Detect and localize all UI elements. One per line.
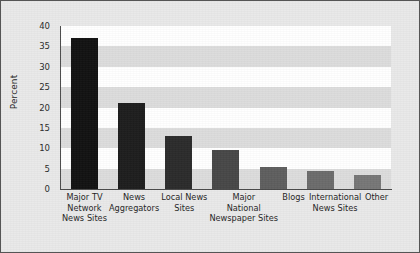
y-axis-tick: 35 [0, 42, 56, 51]
x-axis-category-label: Major TVNetworkNews Sites [61, 192, 108, 224]
x-axis-category-label-line: Other [363, 192, 390, 203]
bar-slot [297, 26, 344, 189]
bar [354, 175, 381, 189]
x-axis-category-label: NewsAggregators [108, 192, 160, 224]
plot-area [61, 26, 391, 189]
x-axis-category-label-line: Network [62, 203, 107, 214]
x-axis-category-label-line: Sites [161, 203, 207, 214]
x-axis-category-label-line: Local News [161, 192, 207, 203]
y-axis-title: Percent [9, 57, 19, 127]
x-axis-category-label-line: International [309, 192, 361, 203]
bar [118, 103, 145, 189]
bar-slot [155, 26, 202, 189]
bar [260, 167, 287, 189]
x-axis-category-label-line: Major [209, 192, 278, 203]
bar-slot [202, 26, 249, 189]
bar [212, 150, 239, 189]
bar-slot [250, 26, 297, 189]
y-axis-tick: 0 [0, 185, 56, 194]
x-axis-category-label: Local NewsSites [160, 192, 208, 224]
bar-slot [344, 26, 391, 189]
bar-slot [61, 26, 108, 189]
chart-figure: 0510152025303540 Percent Major TVNetwork… [0, 0, 420, 253]
y-axis-tick: 10 [0, 144, 56, 153]
x-axis-category-label-line: Major TV [62, 192, 107, 203]
x-axis-category-labels: Major TVNetworkNews SitesNewsAggregators… [61, 192, 391, 224]
bar [307, 171, 334, 189]
x-axis-category-label: MajorNationalNewspaper Sites [208, 192, 279, 224]
bar [165, 136, 192, 189]
x-axis-category-label-line: Aggregators [109, 203, 159, 214]
bar [71, 38, 98, 189]
y-axis-line [60, 26, 61, 190]
x-axis-category-label: Other [362, 192, 391, 224]
x-axis-category-label: InternationalNews Sites [308, 192, 362, 224]
x-axis-category-label-line: News Sites [309, 203, 361, 214]
x-axis-category-label-line: News Sites [62, 213, 107, 224]
x-axis-category-label: Blogs [279, 192, 308, 224]
x-axis-category-label-line: National [209, 203, 278, 214]
x-axis-category-label-line: Newspaper Sites [209, 213, 278, 224]
x-axis-line [60, 189, 392, 190]
bar-series [61, 26, 391, 189]
bar-slot [108, 26, 155, 189]
x-axis-category-label-line: News [109, 192, 159, 203]
y-axis-tick: 5 [0, 164, 56, 173]
y-axis-tick: 40 [0, 22, 56, 31]
x-axis-category-label-line: Blogs [280, 192, 307, 203]
